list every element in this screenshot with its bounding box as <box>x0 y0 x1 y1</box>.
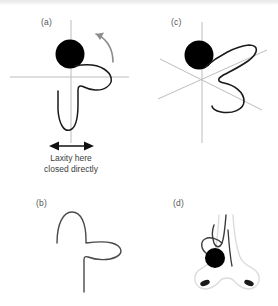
laxity-caption-line-2: closed directly <box>11 164 131 174</box>
panel-label-b: (b) <box>36 198 47 208</box>
panel-label-d: (d) <box>173 198 184 208</box>
panel-c-marker-circle <box>185 41 214 70</box>
laxity-arrow-head-left <box>49 142 59 151</box>
laxity-caption-line-1: Laxity here <box>11 153 131 163</box>
panel-d-group <box>195 215 259 289</box>
panel-b-cartilage-curve <box>57 212 121 292</box>
panel-d-nose-dorsum-right <box>233 215 241 259</box>
panel-label-c: (c) <box>171 17 182 27</box>
panel-a-marker-circle <box>56 40 85 69</box>
panel-d-nostril-left <box>199 279 210 288</box>
panel-d-marker-circle <box>205 248 225 268</box>
figure-root: (a) (c) (b) (d) Laxity here closed direc… <box>0 0 278 306</box>
panel-a-cartilage-curve <box>58 65 111 131</box>
panel-a-group <box>10 20 129 143</box>
panel-c-diagonal-axis-down <box>160 59 262 110</box>
laxity-arrow-head-right <box>84 142 94 151</box>
panel-d-nostril-right <box>243 279 254 288</box>
panel-d-cartilage-tail <box>228 230 232 266</box>
panel-b-group <box>57 212 121 292</box>
panel-a-rotation-arrow-shaft <box>96 34 113 62</box>
panel-label-a: (a) <box>41 17 52 27</box>
panel-c-group <box>158 22 267 143</box>
